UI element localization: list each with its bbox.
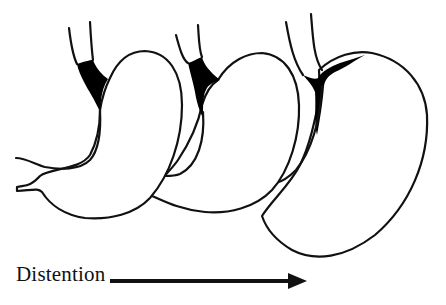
arrow-head-icon [288,273,307,289]
esophagus-1-right [90,22,93,60]
distention-label: Distention [16,262,106,287]
distention-diagram [0,0,446,305]
stomach-stage-1 [16,22,182,218]
distention-arrow [110,273,307,289]
esophagus-2-left [176,35,188,63]
esophagus-1-left [69,28,77,64]
esophagus-2-right [198,25,202,57]
esophagus-3-right [311,14,322,70]
